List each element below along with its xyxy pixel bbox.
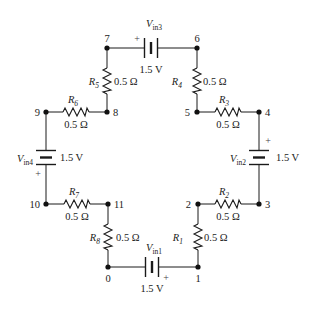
node-8: [104, 109, 109, 114]
resistor-r4: [193, 68, 201, 94]
node-label-3: 3: [265, 199, 270, 210]
source-plus-vin2: +: [265, 135, 271, 146]
resistor-name-r2: R2: [218, 186, 229, 200]
source-name-vin2: Vin2: [230, 153, 246, 167]
resistor-name-r1: R1: [172, 232, 183, 246]
source-value-vin3: 1.5 V: [139, 64, 163, 75]
source-plus-vin1: +: [163, 272, 169, 283]
node-label-9: 9: [35, 107, 40, 118]
node-6: [194, 45, 199, 50]
resistor-name-r8: R8: [89, 232, 100, 246]
source-name-vin3: Vin3: [146, 18, 162, 32]
battery-vin2: [249, 151, 269, 165]
resistor-name-r3: R3: [218, 94, 229, 108]
node-label-7: 7: [104, 33, 109, 44]
resistor-r6: [63, 108, 89, 116]
node-label-11: 11: [114, 199, 124, 210]
source-labels: Vin3 + 1.5 V Vin1 + 1.5 V Vin4 + 1.5 V V…: [17, 18, 300, 294]
resistor-value-r2: 0.5 Ω: [216, 211, 240, 222]
node-5: [194, 109, 199, 114]
battery-vin4: [36, 151, 56, 165]
resistor-name-r7: R7: [68, 186, 79, 200]
resistor-value-r8: 0.5 Ω: [116, 232, 140, 243]
node-label-10: 10: [30, 199, 41, 210]
resistor-value-r1: 0.5 Ω: [204, 232, 228, 243]
resistor-value-r7: 0.5 Ω: [65, 211, 89, 222]
source-name-vin4: Vin4: [17, 153, 33, 167]
resistor-value-r3: 0.5 Ω: [216, 119, 240, 130]
node-4: [256, 109, 261, 114]
resistor-r8: [104, 224, 112, 250]
resistor-name-r6: R6: [67, 94, 78, 108]
resistor-value-r6: 0.5 Ω: [64, 119, 88, 130]
source-value-vin1: 1.5 V: [140, 283, 164, 294]
resistor-value-r4: 0.5 Ω: [203, 76, 227, 87]
node-10: [43, 201, 48, 206]
node-9: [43, 109, 48, 114]
circuit-diagram: 0 1 2 3 4 5 6 7 8 9 10 11 R1 0.5 Ω R2 0.…: [0, 0, 315, 309]
node-7: [104, 45, 109, 50]
source-value-vin4: 1.5 V: [60, 152, 84, 163]
resistor-name-r4: R4: [171, 76, 182, 90]
resistor-name-r5: R5: [88, 76, 99, 90]
resistor-r5: [103, 68, 111, 94]
node-11: [105, 201, 110, 206]
node-1: [195, 264, 200, 269]
node-label-0: 0: [105, 273, 110, 284]
source-value-vin2: 1.5 V: [276, 152, 300, 163]
resistor-r1: [194, 224, 202, 250]
node-0: [105, 264, 110, 269]
node-label-5: 5: [185, 107, 190, 118]
node-label-1: 1: [195, 273, 200, 284]
resistor-r7: [64, 200, 90, 208]
resistor-labels: R1 0.5 Ω R2 0.5 Ω R3 0.5 Ω R4 0.5 Ω R5 0…: [64, 76, 240, 246]
node-label-4: 4: [265, 107, 271, 118]
resistor-r2: [215, 200, 241, 208]
node-label-2: 2: [186, 199, 191, 210]
node-2: [195, 201, 200, 206]
node-3: [256, 201, 261, 206]
resistor-value-r5: 0.5 Ω: [114, 76, 138, 87]
battery-vin1: [146, 257, 159, 277]
battery-vin3: [145, 38, 158, 58]
resistors: [63, 68, 241, 250]
node-label-8: 8: [113, 107, 118, 118]
source-plus-vin3: +: [134, 33, 140, 44]
source-name-vin1: Vin1: [146, 242, 162, 256]
resistor-r3: [215, 108, 241, 116]
source-plus-vin4: +: [35, 168, 41, 179]
node-label-6: 6: [194, 33, 199, 44]
